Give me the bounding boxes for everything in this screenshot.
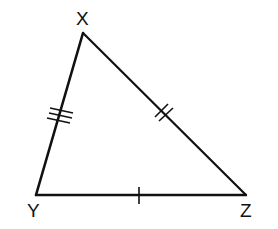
side-xy: [36, 33, 83, 195]
triangle-diagram: [0, 0, 278, 229]
tick-marks-xy: [47, 108, 73, 123]
vertex-label-x: X: [76, 9, 89, 28]
vertex-label-z: Z: [240, 201, 252, 220]
vertex-label-y: Y: [27, 201, 40, 220]
side-xz: [83, 33, 246, 195]
